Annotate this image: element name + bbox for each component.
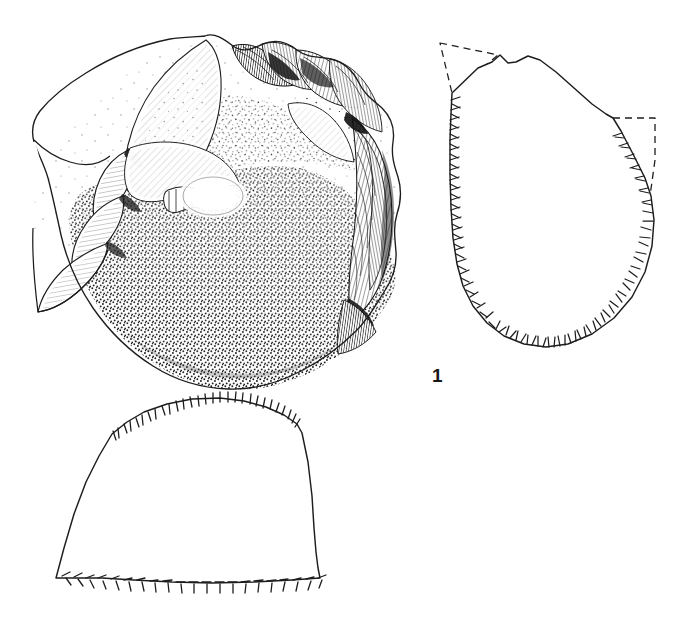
- lithic-illustration-svg: [0, 0, 675, 627]
- illustration-plate: 1: [0, 0, 675, 627]
- dorsal-face-view: [25, 30, 420, 410]
- profile-outline: [450, 55, 654, 347]
- figure-number-label: 1: [432, 366, 443, 385]
- cortex-highlight: [179, 174, 247, 218]
- side-profile-view: [440, 43, 655, 347]
- section-outline: [56, 398, 320, 583]
- cross-section-view: [56, 392, 326, 593]
